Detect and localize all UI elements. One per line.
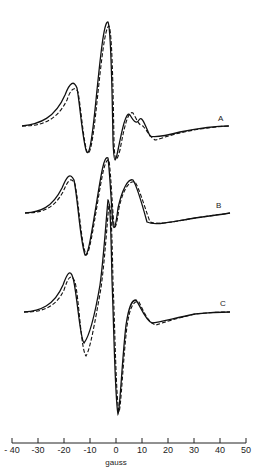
x-axis-label: gauss (105, 458, 126, 467)
x-tick-label: 10 (137, 445, 147, 455)
spectrum-c-solid (24, 200, 230, 414)
x-tick-label: 30 (189, 445, 199, 455)
x-tick-label: -20 (57, 445, 70, 455)
spectrum-b-solid (25, 158, 230, 256)
spectrum-a (22, 22, 229, 160)
spectrum-label-c: C (220, 299, 226, 308)
x-tick-label: -30 (31, 445, 44, 455)
x-tick-label: 50 (241, 445, 251, 455)
spectrum-label-a: A (218, 114, 224, 123)
spectrum-a-solid (22, 22, 229, 160)
x-tick-label: 0 (113, 445, 118, 455)
x-tick-label: 20 (163, 445, 173, 455)
spectrum-label-b: B (216, 201, 221, 210)
spectrum-b-dashed (25, 160, 230, 255)
x-tick-label: 40 (215, 445, 225, 455)
spectrum-a-dashed (22, 26, 229, 160)
x-tick-label: -10 (83, 445, 96, 455)
spectrum-c-dashed (24, 204, 230, 412)
epr-spectra-chart: A B C - 40 -30 -20 -10 0 10 20 30 40 50 … (0, 0, 255, 474)
x-axis: - 40 -30 -20 -10 0 10 20 30 40 50 gauss (4, 438, 251, 467)
x-tick-label: - 40 (4, 445, 20, 455)
spectrum-c (24, 200, 230, 414)
spectrum-b (25, 158, 230, 256)
